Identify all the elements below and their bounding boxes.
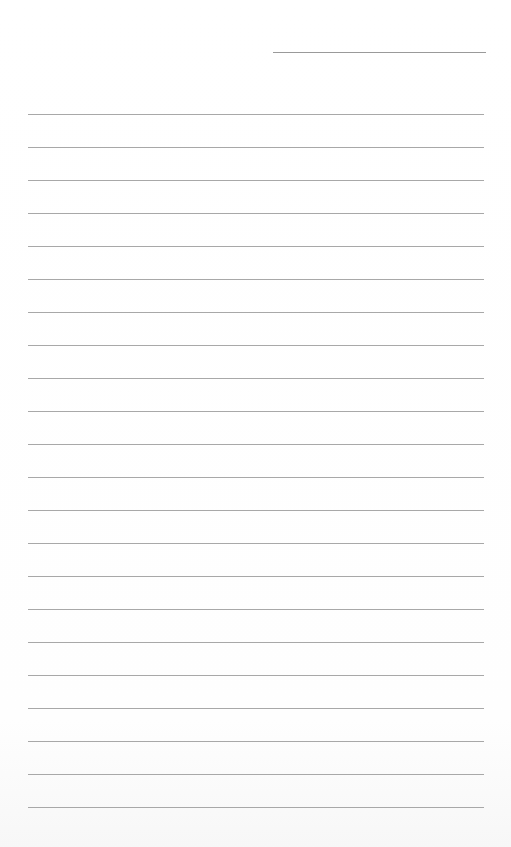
ruled-line (28, 411, 484, 412)
ruled-line (28, 345, 484, 346)
ruled-line (28, 774, 484, 775)
ruled-line (28, 279, 484, 280)
ruled-line (28, 609, 484, 610)
ruled-line (28, 675, 484, 676)
ruled-line (28, 642, 484, 643)
ruled-line (28, 510, 484, 511)
ruled-line (28, 576, 484, 577)
ruled-line (28, 444, 484, 445)
ruled-line (28, 180, 484, 181)
ruled-line (28, 708, 484, 709)
ruled-line (28, 741, 484, 742)
ruled-line (28, 312, 484, 313)
ruled-line (28, 114, 484, 115)
ruled-line (28, 543, 484, 544)
ruled-line (28, 378, 484, 379)
ruled-line (28, 477, 484, 478)
ruled-line (28, 807, 484, 808)
lined-paper-sheet (0, 0, 511, 847)
ruled-line (28, 246, 484, 247)
ruled-line (28, 213, 484, 214)
ruled-line (28, 147, 484, 148)
date-line (273, 52, 486, 53)
